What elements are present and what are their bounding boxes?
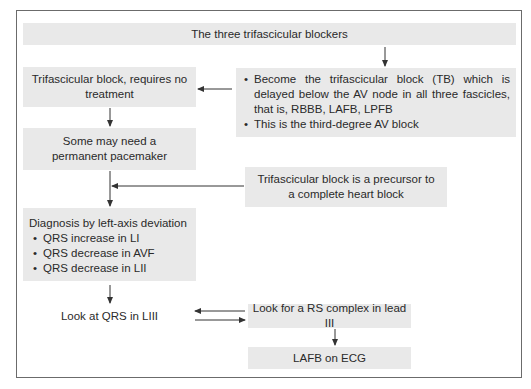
connector-arrows xyxy=(0,0,531,389)
